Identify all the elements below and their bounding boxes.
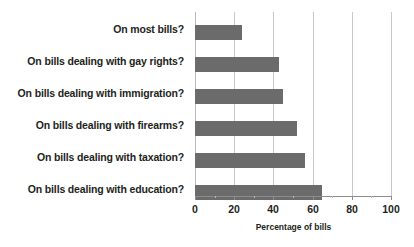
gridline-100 — [391, 12, 392, 196]
category-label-taxation: On bills dealing with taxation? — [0, 152, 184, 163]
x-tick-label-60: 60 — [307, 203, 319, 215]
category-label-most-bills: On most bills? — [0, 24, 184, 35]
x-tick-label-20: 20 — [228, 203, 240, 215]
bar-immigration — [195, 89, 283, 104]
category-label-immigration: On bills dealing with immigration? — [0, 88, 184, 99]
x-tick-minor-90 — [371, 196, 372, 198]
x-tick-80 — [352, 196, 353, 200]
x-tick-label-100: 100 — [382, 203, 400, 215]
bar-gay-rights — [195, 57, 279, 72]
gridline-40 — [273, 12, 274, 196]
x-tick-label-40: 40 — [267, 203, 279, 215]
x-tick-minor-50 — [293, 196, 294, 198]
category-label-firearms: On bills dealing with firearms? — [0, 120, 184, 131]
bar-taxation — [195, 153, 305, 168]
category-label-gay-rights: On bills dealing with gay rights? — [0, 56, 184, 67]
x-tick-label-80: 80 — [346, 203, 358, 215]
plot-area — [195, 12, 391, 196]
x-tick-0 — [195, 196, 196, 200]
category-label-column: On most bills? On bills dealing with gay… — [0, 0, 190, 202]
x-tick-label-0: 0 — [192, 203, 198, 215]
x-tick-60 — [313, 196, 314, 200]
category-label-education: On bills dealing with education? — [0, 184, 184, 195]
bar-most-bills — [195, 25, 242, 40]
x-axis-title: Percentage of bills — [195, 222, 392, 232]
x-tick-minor-30 — [254, 196, 255, 198]
gridline-60 — [313, 12, 314, 196]
bar-chart: On most bills? On bills dealing with gay… — [0, 0, 414, 247]
x-tick-100 — [391, 196, 392, 200]
bar-firearms — [195, 121, 297, 136]
x-tick-40 — [273, 196, 274, 200]
x-tick-minor-70 — [332, 196, 333, 198]
gridline-80 — [352, 12, 353, 196]
x-tick-20 — [234, 196, 235, 200]
x-tick-minor-10 — [215, 196, 216, 198]
